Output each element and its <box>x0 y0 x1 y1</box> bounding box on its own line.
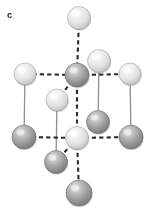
atom-sphere <box>46 89 69 112</box>
atom-specular-highlight <box>123 67 130 73</box>
atom-dark <box>87 111 110 134</box>
atom-sphere <box>65 63 90 88</box>
atom-specular-highlight <box>69 67 77 73</box>
atom-specular-highlight <box>72 11 80 17</box>
atom-specular-highlight <box>16 129 24 135</box>
atom-specular-highlight <box>71 185 80 192</box>
atom-dark <box>45 151 68 174</box>
atom-sphere <box>119 125 144 150</box>
atom-light <box>14 63 36 85</box>
atom-specular-highlight <box>91 115 99 121</box>
figure-root: c <box>0 0 153 211</box>
atom-sphere <box>66 180 93 207</box>
atom-specular-highlight <box>49 155 57 161</box>
atom-light <box>66 127 89 150</box>
atom-sphere <box>88 50 112 74</box>
atom-sphere <box>119 63 142 86</box>
atom-light <box>46 89 68 111</box>
atom-sphere <box>87 111 111 135</box>
atom-dark <box>12 125 36 149</box>
atom-dark <box>65 63 89 87</box>
atom-specular-highlight <box>70 131 78 137</box>
dashed-bond-layer <box>24 18 131 193</box>
atom-sphere <box>45 151 69 175</box>
atom-sphere <box>68 7 92 31</box>
atom-dark <box>66 180 92 206</box>
crystal-structure-diagram <box>0 0 153 211</box>
atom-dark <box>119 125 143 149</box>
atom-specular-highlight <box>18 67 25 73</box>
atom-light <box>119 63 141 85</box>
atom-specular-highlight <box>123 129 131 135</box>
atom-specular-highlight <box>92 54 100 60</box>
atom-specular-highlight <box>50 93 57 99</box>
atom-light <box>68 7 91 30</box>
atom-sphere <box>14 63 37 86</box>
atom-light <box>88 50 111 73</box>
atom-sphere <box>66 127 90 151</box>
atom-sphere <box>12 125 37 150</box>
